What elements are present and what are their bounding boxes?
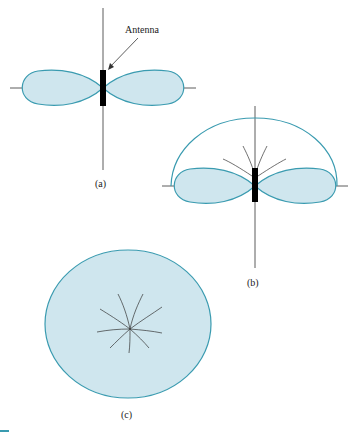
panel-a-label: (a) xyxy=(95,178,106,189)
panel-c-label: (c) xyxy=(121,409,132,420)
panel-a xyxy=(10,8,196,170)
right-lobe xyxy=(103,70,184,105)
panel-b xyxy=(162,106,348,268)
right-lobe xyxy=(255,168,336,203)
panel-b-label: (b) xyxy=(247,277,259,288)
circular-pattern xyxy=(45,250,211,398)
antenna-element xyxy=(100,70,106,106)
accent-bar xyxy=(0,430,9,432)
antenna-pattern-diagram xyxy=(0,0,358,437)
antenna-callout-label: Antenna xyxy=(125,24,159,35)
callout-arrow xyxy=(109,38,138,68)
panel-c xyxy=(45,250,211,398)
left-lobe xyxy=(174,168,255,203)
antenna-element xyxy=(252,168,258,202)
left-lobe xyxy=(22,70,103,105)
